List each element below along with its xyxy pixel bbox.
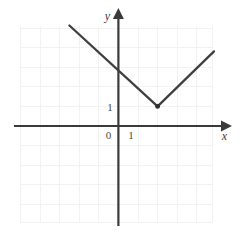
origin-label: 0 bbox=[106, 129, 112, 141]
x-axis bbox=[14, 121, 232, 132]
vertex-point-marker bbox=[155, 104, 160, 109]
y-tick-label-one: 1 bbox=[107, 101, 113, 113]
absolute-value-graph bbox=[69, 26, 214, 107]
x-tick-label-one: 1 bbox=[128, 129, 134, 141]
x-axis-label: x bbox=[221, 129, 228, 143]
y-axis bbox=[113, 8, 124, 226]
grid-vertical-lines bbox=[20, 26, 212, 223]
coordinate-plane: 0 1 1 x y bbox=[0, 0, 244, 245]
graph-figure: 0 1 1 x y bbox=[0, 0, 244, 245]
y-axis-label: y bbox=[104, 9, 111, 23]
y-axis-arrow-icon bbox=[113, 8, 124, 19]
